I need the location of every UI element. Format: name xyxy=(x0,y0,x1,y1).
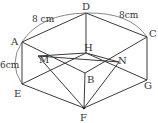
dimension-AD: 8 cm xyxy=(32,14,55,24)
dimension-DC: 8cm xyxy=(119,10,139,20)
label-M: M xyxy=(39,54,49,65)
edge-BF xyxy=(84,73,85,108)
edge-HG xyxy=(86,53,147,80)
edge-EF xyxy=(22,84,84,108)
vertex-dot-F xyxy=(83,107,86,110)
label-D: D xyxy=(82,1,90,12)
label-H: H xyxy=(84,42,93,53)
label-B: B xyxy=(87,74,94,85)
dimension-AE: 6cm xyxy=(0,60,20,70)
label-A: A xyxy=(10,36,19,47)
label-E: E xyxy=(14,88,21,99)
label-C: C xyxy=(149,28,157,39)
label-G: G xyxy=(144,80,152,91)
label-F: F xyxy=(80,112,87,123)
geometry-figure: D A C H M N B E G F 8 cm 8cm 6cm xyxy=(0,0,158,123)
edge-NF xyxy=(84,62,119,108)
label-N: N xyxy=(118,55,127,66)
